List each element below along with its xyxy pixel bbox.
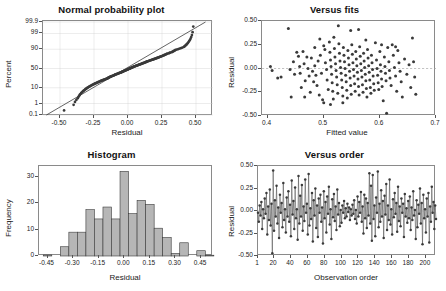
versus-fits-scatter [262,21,436,116]
panel-versus-fits: Versus fits Residual Fitted value -0.50-… [223,0,446,145]
tick-mark [273,255,274,258]
tick-mark [435,115,436,118]
histogram-bar [94,219,103,256]
residual-tick: 0.00 [223,206,253,213]
tick-mark [357,255,358,258]
x-axis-label-fitted-value: Fitted value [261,128,433,137]
tick-mark [35,255,38,256]
fitted-value-tick: 0.6 [363,119,395,126]
tick-mark [47,255,48,258]
tick-mark [257,255,258,258]
tick-mark [195,115,196,118]
histogram-bar [129,214,138,256]
tick-mark [254,210,257,211]
tick-mark [254,233,257,234]
histogram-bar [146,204,155,256]
tick-mark [258,20,261,21]
residual-tick: 0.00 [227,64,257,71]
frequency-tick: 10 [4,225,34,232]
tick-mark [290,255,291,258]
tick-mark [267,115,268,118]
fitted-value-tick: 0.5 [307,119,339,126]
tick-mark [258,68,261,69]
histogram-bar [60,247,69,256]
panel-title-normal-probability-plot: Normal probability plot [0,4,223,15]
tick-mark [39,48,42,49]
tick-mark [39,103,42,104]
residual-tick: 0.45 [184,259,216,266]
tick-mark [59,115,60,118]
tick-mark [39,68,42,69]
residual-tick: -0.25 [227,87,257,94]
percent-tick: 50 [8,64,38,71]
histogram-bar [120,171,129,256]
frequency-tick: 0 [4,251,34,258]
frequency-tick: 20 [4,198,34,205]
tick-mark [149,255,150,258]
tick-mark [374,255,375,258]
tick-mark [425,255,426,258]
tick-mark [258,91,261,92]
panel-title-versus-order: Versus order [223,149,446,160]
histogram-bar [197,251,206,256]
percent-tick: 10 [8,83,38,90]
plot-area-normal-probability [42,20,212,115]
plot-area-versus-fits [261,20,435,115]
tick-mark [39,87,42,88]
tick-mark [307,255,308,258]
tick-mark [35,229,38,230]
residual-tick: -0.50 [227,111,257,118]
histogram-bar [205,255,214,256]
histogram-bar [112,219,121,256]
residual-tick: 0.25 [223,184,253,191]
tick-mark [258,115,261,116]
percent-tick: 99 [8,28,38,35]
tick-mark [93,115,94,118]
tick-mark [324,255,325,258]
plot-area-histogram [38,165,212,255]
frequency-tick: 30 [4,172,34,179]
x-axis-label-residual-hist: Residual [38,273,212,282]
tick-mark [35,202,38,203]
percent-tick: 1 [8,99,38,106]
tick-mark [323,115,324,118]
panel-title-histogram: Histogram [0,149,223,160]
tick-mark [174,255,175,258]
tick-mark [39,21,42,22]
percent-tick: 0.1 [8,110,38,117]
histogram-bar [171,253,180,256]
histogram-bar [69,232,78,256]
residual-tick: 0.50 [223,161,253,168]
residual-tick: -0.50 [223,251,253,258]
residual-tick: -0.25 [223,229,253,236]
tick-mark [35,176,38,177]
residual-tick: 0.25 [227,40,257,47]
residual-tick: -0.25 [77,119,109,126]
x-axis-label-observation-order: Observation order [257,273,435,282]
residual-tick: 0.50 [227,16,257,23]
tick-mark [379,115,380,118]
observation-order-tick: 200 [409,259,441,266]
histogram-bar [154,228,163,256]
tick-mark [72,255,73,258]
histogram-bar [180,243,189,256]
residual-tick: 0.00 [111,119,143,126]
percent-tick: 90 [8,44,38,51]
tick-mark [408,255,409,258]
tick-mark [254,188,257,189]
tick-mark [123,255,124,258]
x-axis-label-residual: Residual [42,128,212,137]
percent-tick: 99.9 [8,17,38,24]
panel-normal-probability-plot: Normal probability plot Percent Residual… [0,0,223,145]
residual-tick: -0.50 [43,119,75,126]
tick-mark [39,114,42,115]
plot-area-versus-order [257,165,435,255]
histogram-bar [137,200,146,256]
residual-plots-figure: Normal probability plot Percent Residual… [0,0,446,291]
tick-mark [391,255,392,258]
tick-mark [39,32,42,33]
fitted-value-tick: 0.7 [419,119,446,126]
histogram-bar [86,210,95,256]
tick-mark [161,115,162,118]
versus-order-series [258,166,436,256]
